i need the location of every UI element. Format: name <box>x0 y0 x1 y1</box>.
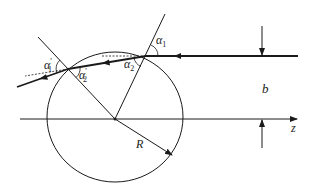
label-alpha1: α1 <box>156 34 166 49</box>
alpha1-subscript: 1 <box>162 40 166 49</box>
alpha1-prime-subscript: 1 <box>48 65 52 74</box>
label-b: b <box>262 82 269 95</box>
label-alpha1-prime: α′1 <box>44 58 52 74</box>
outgoing-ray-arrow-icon <box>39 74 48 80</box>
label-alpha2: α2 <box>124 58 134 73</box>
alpha2-subscript: 2 <box>130 64 134 73</box>
optics-diagram: α1 α2 α′1 α′2 b z R <box>0 0 315 190</box>
incident-ray-arrow-icon <box>174 53 181 59</box>
label-alpha2-prime: α′2 <box>79 68 87 84</box>
normal-exit <box>38 37 115 119</box>
label-z: z <box>291 122 296 134</box>
arc-alpha2 <box>134 58 141 67</box>
alpha2-prime-subscript: 2 <box>83 75 87 84</box>
label-R: R <box>136 138 143 150</box>
arc-alpha1-prime <box>56 60 60 73</box>
sphere-outline <box>47 52 183 182</box>
radius-arrow <box>115 119 172 155</box>
sphere-center <box>114 118 117 121</box>
